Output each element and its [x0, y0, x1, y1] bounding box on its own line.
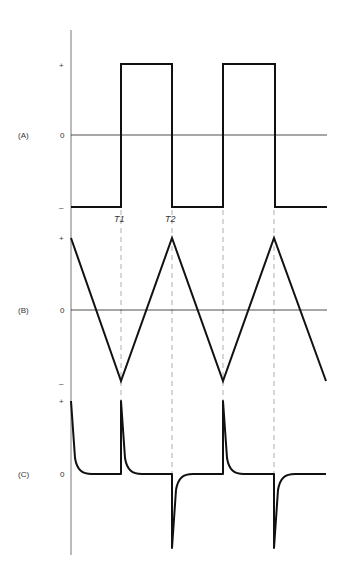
panel-c-label: (C) — [18, 470, 29, 479]
t2-label: T2 — [165, 214, 176, 224]
waveform-diagram: (A) + 0 – T1 T2 (B) + 0 – (C) + 0 — [0, 0, 343, 581]
panel-b-minus-tick: – — [59, 379, 64, 388]
panel-a-minus-tick: – — [59, 203, 64, 212]
triangle-wave — [71, 238, 326, 381]
t1-label: T1 — [114, 214, 125, 224]
timing-markers — [121, 210, 274, 474]
panel-a-plus-tick: + — [59, 61, 64, 70]
panel-b-plus-tick: + — [59, 234, 64, 243]
panel-c-plus-tick: + — [59, 397, 64, 406]
square-wave — [71, 64, 327, 207]
panel-b-zero-tick: 0 — [60, 306, 65, 315]
panel-a-zero-tick: 0 — [60, 131, 65, 140]
spike-wave — [71, 401, 326, 548]
panel-a-label: (A) — [18, 131, 29, 140]
panel-b-label: (B) — [18, 306, 29, 315]
panel-c-zero-tick: 0 — [60, 470, 65, 479]
